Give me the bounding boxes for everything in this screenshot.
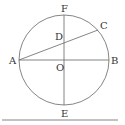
- label-e: E: [61, 108, 68, 119]
- label-a: A: [8, 55, 17, 66]
- geometry-diagram: F C D A O B E: [0, 0, 125, 125]
- label-o: O: [56, 62, 64, 73]
- label-d: D: [55, 31, 63, 42]
- label-c: C: [100, 20, 108, 31]
- label-b: B: [111, 55, 118, 66]
- label-f: F: [61, 3, 68, 14]
